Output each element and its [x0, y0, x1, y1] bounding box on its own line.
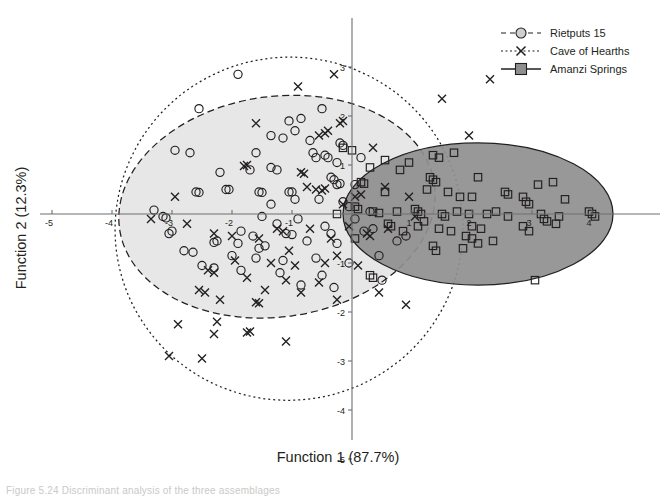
- ellipse-layer: [88, 30, 613, 428]
- point-marker-x: [174, 320, 182, 328]
- point-marker-x: [213, 318, 221, 326]
- legend-marker-square: [516, 64, 527, 75]
- point-marker-circle: [234, 70, 242, 78]
- legend-label: Amanzi Springs: [550, 63, 628, 75]
- legend: Rietputs 15Cave of HearthsAmanzi Springs: [501, 27, 630, 75]
- point-marker-x: [198, 355, 206, 363]
- point-marker-x: [402, 301, 410, 309]
- y-tick-label: -1: [337, 259, 345, 269]
- point-marker-x: [438, 95, 446, 103]
- x-tick-label: -3: [165, 218, 173, 228]
- point-marker-x: [465, 132, 473, 140]
- y-tick-label: 3: [340, 63, 345, 73]
- x-axis-title: Function 1 (87.7%): [277, 449, 400, 465]
- point-marker-x: [330, 70, 338, 78]
- x-tick-label: -5: [45, 218, 53, 228]
- point-marker-circle: [195, 105, 203, 113]
- x-tick-label: -1: [285, 218, 293, 228]
- legend-marker-circle: [516, 28, 526, 38]
- x-tick-label: 3: [526, 218, 531, 228]
- x-tick-label: 1: [406, 218, 411, 228]
- point-marker-x: [210, 330, 218, 338]
- point-marker-x: [486, 75, 494, 83]
- legend-item-rietputs-15[interactable]: Rietputs 15: [501, 27, 606, 39]
- y-tick-label: 2: [340, 112, 345, 122]
- x-tick-label: 2: [466, 218, 471, 228]
- y-axis-title: Function 2 (12.3%): [13, 167, 29, 290]
- y-tick-label: 1: [340, 161, 345, 171]
- scatter-plot: -5-4-3-2-11234321-1-2-3-4-5Function 1 (8…: [0, 0, 668, 470]
- x-tick-label: -2: [225, 218, 233, 228]
- legend-item-cave-of-hearths[interactable]: Cave of Hearths: [501, 45, 630, 57]
- point-marker-x: [282, 337, 290, 345]
- x-tick-label: 4: [586, 218, 591, 228]
- x-tick-label: -4: [105, 218, 113, 228]
- y-tick-label: -4: [337, 406, 345, 416]
- point-marker-x: [165, 352, 173, 360]
- legend-label: Rietputs 15: [550, 27, 606, 39]
- figure-root: -5-4-3-2-11234321-1-2-3-4-5Function 1 (8…: [0, 0, 668, 497]
- y-tick-label: -2: [337, 308, 345, 318]
- y-tick-label: -3: [337, 357, 345, 367]
- figure-caption: Figure 5.24 Discriminant analysis of the…: [6, 485, 280, 496]
- point-marker-x: [375, 288, 383, 296]
- legend-item-amanzi-springs[interactable]: Amanzi Springs: [501, 63, 628, 75]
- point-marker-x: [294, 83, 302, 91]
- legend-label: Cave of Hearths: [550, 45, 630, 57]
